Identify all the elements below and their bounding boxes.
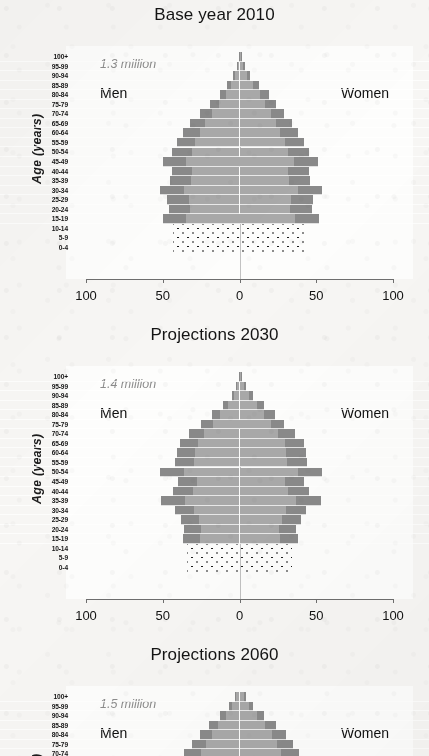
pyramid-row [0,372,429,382]
pyramid-row [0,420,429,430]
pyramid-row [0,167,429,177]
x-axis-tick [393,279,394,283]
x-axis-tick [163,599,164,603]
chart-title: Base year 2010 [0,0,429,26]
pyramid-row [0,138,429,148]
pyramid-row [0,749,429,756]
pyramid-row [0,71,429,81]
x-axis-tick [316,599,317,603]
x-axis-tick-label: 100 [75,288,97,303]
x-axis-tick-label: 50 [156,608,170,623]
pyramid-row [0,176,429,186]
chart-panel-base-year-2010: Base year 2010 Age (years)100+95-9990-94… [0,0,429,320]
pyramid-row [0,468,429,478]
age-group-tick-label: 0-4 [20,243,68,253]
pyramid-row [0,109,429,119]
pyramid-row [0,128,429,138]
pyramid-row [0,458,429,468]
age-group-tick-label: 5-9 [20,233,68,243]
pyramid-row [0,429,429,439]
pyramid-row [0,205,429,215]
pyramid-row [0,702,429,712]
bar-men [184,749,239,756]
x-axis-tick-label: 0 [236,288,243,303]
x-axis-tick [240,599,241,603]
plot-wrap: Age (years)100+95-9990-9485-8980-8475-79… [0,666,429,756]
pyramid-row [0,711,429,721]
bar-women [240,749,300,756]
pyramid-row [0,52,429,62]
pyramid-row [0,81,429,91]
pyramid-row [0,740,429,750]
pyramid-row [0,157,429,167]
pyramid-row [0,186,429,196]
x-axis-tick-label: 0 [236,608,243,623]
x-axis-tick-label: 100 [382,288,404,303]
pyramid-row [0,410,429,420]
chart-title: Projections 2060 [0,640,429,666]
pyramid-row [0,721,429,731]
age-group-tick-label: 0-4 [20,563,68,573]
pyramid-row [0,382,429,392]
x-axis-tick-label: 100 [382,608,404,623]
plot-wrap: Age (years)100+95-9990-9485-8980-8475-79… [0,346,429,638]
pyramid-row [0,515,429,525]
age-group-tick-label: 5-9 [20,553,68,563]
stippled-young-age-block [173,224,305,253]
pyramid-row [0,391,429,401]
pyramid-row [0,90,429,100]
x-axis-tick [316,279,317,283]
pyramid-row [0,730,429,740]
pyramid-row [0,525,429,535]
stippled-young-age-block [187,544,291,573]
chart-title: Projections 2030 [0,320,429,346]
x-axis-tick [393,599,394,603]
bar-segment-outer [281,749,299,756]
x-axis-tick-label: 50 [309,288,323,303]
x-axis-tick-label: 50 [309,608,323,623]
x-axis-tick-label: 100 [75,608,97,623]
x-axis-tick [240,279,241,283]
pyramid-row [0,534,429,544]
pyramid-row [0,119,429,129]
pyramid-row [0,448,429,458]
chart-panel-projections-2060: Projections 2060 Age (years)100+95-9990-… [0,640,429,756]
pyramid-row [0,496,429,506]
pyramid-row [0,506,429,516]
x-axis-tick-label: 50 [156,288,170,303]
x-axis-tick [86,599,87,603]
x-axis-tick [86,279,87,283]
chart-panel-projections-2030: Projections 2030 Age (years)100+95-9990-… [0,320,429,640]
bar-segment-outer [184,749,201,756]
pyramid-row [0,692,429,702]
age-group-tick-label: 10-14 [20,544,68,554]
plot-wrap: Age (years)100+95-9990-9485-8980-8475-79… [0,26,429,318]
pyramid-row [0,214,429,224]
pyramid-row [0,195,429,205]
pyramid-row [0,477,429,487]
pyramid-row [0,439,429,449]
pyramid-row [0,148,429,158]
pyramid-row [0,487,429,497]
pyramid-row [0,100,429,110]
pyramid-row [0,62,429,72]
x-axis-tick [163,279,164,283]
age-group-tick-label: 10-14 [20,224,68,234]
pyramid-row [0,401,429,411]
